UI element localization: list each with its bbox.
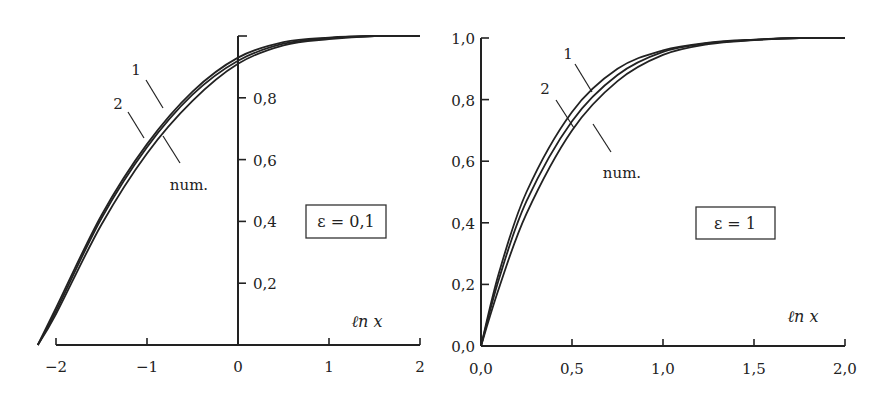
leader-line-1	[146, 80, 163, 108]
x-tick-label: 2,0	[833, 360, 857, 378]
epsilon-label: ε = 0,1	[317, 212, 374, 231]
x-tick-label: −2	[45, 358, 67, 376]
x-tick-label: 0,0	[469, 360, 493, 378]
curve-num	[38, 36, 420, 345]
curve-label-1: 1	[563, 45, 573, 63]
leader-line-num	[163, 136, 180, 163]
curve-num	[481, 38, 845, 346]
curve-label-1: 1	[131, 61, 141, 79]
curve-2	[38, 36, 420, 345]
leader-line-1	[575, 64, 592, 92]
chart-epsilon-0-1: −2−10120,20,40,60,812num.ε = 0,1ℓn x	[38, 36, 425, 376]
leader-line-num	[593, 124, 611, 152]
y-tick-label: 0,4	[253, 213, 277, 231]
curve-1	[481, 38, 845, 346]
x-tick-label: 0,5	[560, 360, 584, 378]
y-tick-label: 0,2	[451, 276, 475, 294]
curve-label-2: 2	[540, 80, 550, 98]
curve-2	[481, 38, 845, 346]
y-tick-label: 1,0	[451, 30, 475, 48]
x-tick-label: 1,0	[651, 360, 675, 378]
y-tick-label: 0,0	[451, 338, 475, 356]
epsilon-label: ε = 1	[714, 214, 756, 233]
y-tick-label: 0,4	[451, 215, 475, 233]
y-tick-label: 0,6	[253, 152, 277, 170]
x-tick-label: 2	[415, 358, 425, 376]
x-tick-label: −1	[136, 358, 158, 376]
curve-label-num: num.	[603, 164, 641, 182]
x-tick-label: 0	[233, 358, 243, 376]
x-axis-title: ℓn x	[787, 307, 818, 326]
y-tick-label: 0,8	[451, 92, 475, 110]
curve-label-2: 2	[113, 95, 123, 113]
figure: −2−10120,20,40,60,812num.ε = 0,1ℓn x 0,0…	[0, 0, 884, 400]
y-tick-label: 0,8	[253, 90, 277, 108]
chart-epsilon-1: 0,00,51,01,52,00,00,20,40,60,81,012num.ε…	[451, 30, 857, 378]
x-tick-label: 1	[324, 358, 334, 376]
y-tick-label: 0,2	[253, 275, 277, 293]
leader-line-2	[128, 112, 144, 138]
x-axis-title: ℓn x	[351, 312, 382, 331]
curve-label-num: num.	[170, 176, 208, 194]
y-tick-label: 0,6	[451, 153, 475, 171]
x-tick-label: 1,5	[742, 360, 766, 378]
curve-1	[38, 36, 420, 345]
